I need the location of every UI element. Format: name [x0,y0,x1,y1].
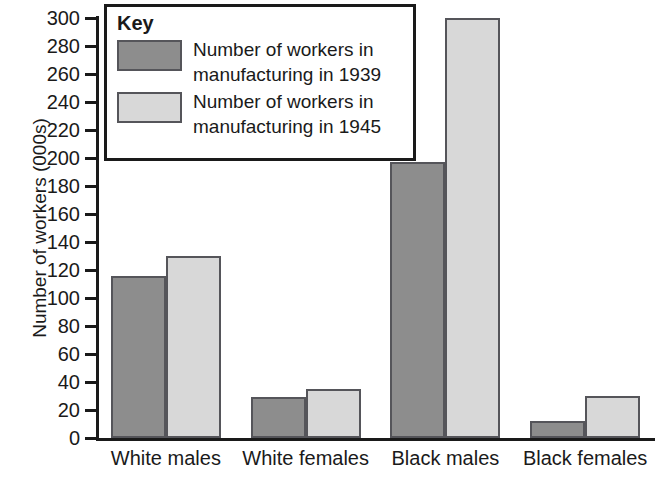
y-axis-tick-mark [85,17,96,20]
y-axis-tick-label: 40 [58,372,85,392]
y-axis-tick-mark [85,353,96,356]
legend-title: Key [117,11,413,35]
y-axis-tick-label: 60 [58,344,85,364]
y-axis-tick-mark [85,45,96,48]
x-axis-line [96,438,655,441]
y-axis-tick-label: 80 [58,316,85,336]
x-axis-labels: White malesWhite femalesBlack malesBlack… [96,443,655,475]
y-axis-tick-label: 200 [47,148,85,168]
y-axis-tick-mark [85,325,96,328]
bar [390,162,445,438]
y-axis-tick-label: 100 [47,288,85,308]
legend-item: Number of workers in manufacturing in 19… [117,89,413,139]
y-axis-ticks: 0204060801001201401601802002202402602803… [30,0,96,477]
bar [111,276,166,438]
y-axis-tick-mark [85,409,96,412]
bar [251,397,306,438]
x-axis-category-label: Black males [376,443,516,473]
y-axis-tick-mark [85,157,96,160]
bar [585,396,640,438]
x-axis-category-label: White females [236,443,376,473]
y-axis-tick-mark [85,241,96,244]
y-axis-tick-mark [85,381,96,384]
legend-key-box: Key Number of workers in manufacturing i… [104,4,416,161]
bar [445,18,500,438]
y-axis-tick-label: 260 [47,64,85,84]
legend-swatch-1945-icon [117,92,182,123]
bar [530,421,585,438]
y-axis-tick-label: 220 [47,120,85,140]
bar-chart: Number of workers (000s) 020406080100120… [0,0,661,477]
y-axis-tick-label: 120 [47,260,85,280]
y-axis-tick-mark [85,101,96,104]
y-axis-tick-label: 300 [47,8,85,28]
y-axis-tick-label: 280 [47,36,85,56]
x-axis-category-label: Black females [515,443,655,473]
y-axis-tick-mark [85,269,96,272]
x-axis-category-label: White males [96,443,236,473]
y-axis-tick-label: 20 [58,400,85,420]
bar [306,389,361,438]
y-axis-tick-mark [85,185,96,188]
y-axis-tick-label: 180 [47,176,85,196]
y-axis-tick-label: 0 [69,428,85,448]
legend-swatch-1939-icon [117,40,182,71]
legend-label-1945: Number of workers in manufacturing in 19… [193,89,381,139]
y-axis-tick-label: 140 [47,232,85,252]
y-axis-tick-label: 240 [47,92,85,112]
bar [166,256,221,438]
y-axis-tick-label: 160 [47,204,85,224]
y-axis-tick-mark [85,437,96,440]
y-axis-tick-mark [85,213,96,216]
legend-label-1939: Number of workers in manufacturing in 19… [193,37,381,87]
y-axis-tick-mark [85,73,96,76]
y-axis-tick-mark [85,297,96,300]
y-axis-tick-mark [85,129,96,132]
legend-item: Number of workers in manufacturing in 19… [117,37,413,87]
